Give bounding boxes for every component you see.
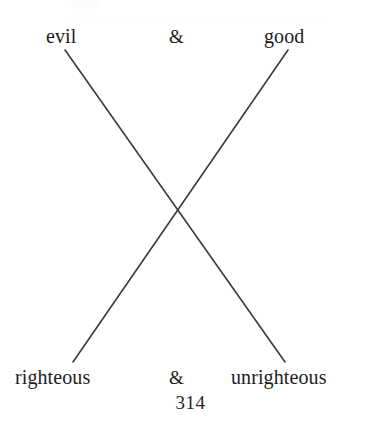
label-good: good [264,26,304,46]
label-unrighteous: unrighteous [231,367,327,387]
document-page: evil & good righteous & unrighteous 314 [0,0,381,436]
conjunction-top: & [169,27,184,46]
page-number: 314 [0,393,381,412]
label-evil: evil [46,26,76,46]
diagram-line-evil-to-unrighteous [65,50,285,362]
diagram-line-good-to-righteous [73,50,288,362]
label-righteous: righteous [15,367,90,387]
conjunction-bottom: & [169,368,184,387]
